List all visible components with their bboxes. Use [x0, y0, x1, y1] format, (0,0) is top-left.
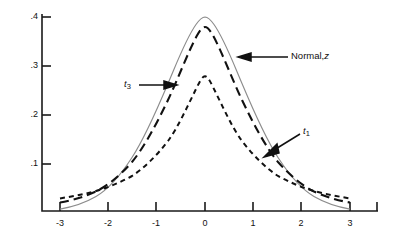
x-tick-label--2: -2 — [96, 219, 120, 228]
curve-normal — [60, 17, 350, 209]
annotation-normal-text: Normal, — [291, 50, 324, 61]
axis-lines — [42, 14, 378, 211]
y-tick-label-0.3: .3 — [16, 61, 38, 70]
normal-arrowhead — [238, 53, 251, 61]
y-tick-label-0.2: .2 — [16, 110, 38, 119]
y-tick-label-0.4: .4 — [16, 12, 38, 21]
annotation-t3-subscript: 3 — [127, 82, 131, 91]
x-tick-label-3: 3 — [338, 219, 362, 228]
x-tick-label--3: -3 — [48, 219, 72, 228]
x-tick-label-2: 2 — [289, 219, 313, 228]
plot-area — [0, 0, 393, 243]
annotation-t1-subscript: 1 — [306, 129, 310, 138]
annotation-t3: t3 — [124, 79, 131, 92]
x-tick-label-1: 1 — [241, 219, 265, 228]
annotation-normal-symbol: z — [324, 50, 329, 61]
annotation-normal: Normal,z — [291, 51, 329, 61]
annotation-leaders — [139, 53, 300, 157]
density-comparison-figure: .4 .3 .2 .1 -3 -2 -1 0 1 2 3 Normal,z t3… — [0, 0, 393, 243]
y-tick-label-0.1: .1 — [16, 159, 38, 168]
annotation-t1: t1 — [303, 126, 310, 139]
y-axis-ticks — [42, 17, 51, 164]
x-tick-label--1: -1 — [144, 219, 168, 228]
x-tick-label-0: 0 — [193, 219, 217, 228]
